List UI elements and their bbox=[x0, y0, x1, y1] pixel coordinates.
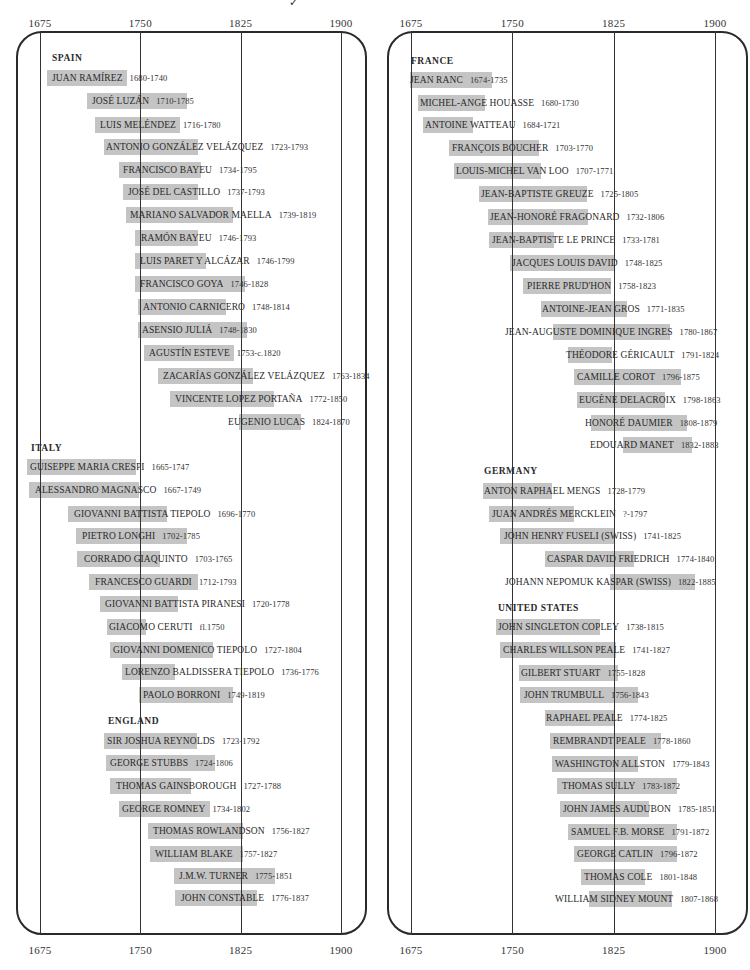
artist-row: EDOUARD MANET1832-1883 bbox=[590, 439, 719, 451]
artist-name: CORRADO GIAQUINTO bbox=[84, 554, 188, 564]
artist-name: GEORGE CATLIN bbox=[577, 849, 653, 859]
artist-name: JEAN-BAPTISTE LE PRINCE bbox=[492, 235, 615, 245]
artist-name: THÉODORE GÉRICAULT bbox=[566, 350, 674, 360]
artist-row: ZACARÍAS GONZÁLEZ VELÁZQUEZ1763-1834 bbox=[163, 370, 370, 382]
artist-dates: 1748-1825 bbox=[625, 258, 663, 268]
artist-row: JACQUES LOUIS DAVID1748-1825 bbox=[512, 257, 662, 269]
artist-name: JEAN-HONORÉ FRAGONARD bbox=[490, 212, 620, 222]
artist-dates: 1736-1776 bbox=[281, 667, 319, 677]
artist-row: JOHN SINGLETON COPLEY1738-1815 bbox=[498, 621, 664, 633]
artist-dates: 1748-1830 bbox=[219, 325, 257, 335]
artist-row: ANTOINE-JEAN GROS1771-1835 bbox=[542, 303, 685, 315]
top-axis-tick-label: 1900 bbox=[703, 17, 726, 29]
artist-name: MICHEL-ANGE HOUASSE bbox=[420, 98, 534, 108]
artist-row: PIERRE PRUD'HON1758-1823 bbox=[527, 280, 656, 292]
artist-row: JEAN-BAPTISTE GREUZE1725-1805 bbox=[481, 188, 638, 200]
artist-name: GIACOMO CERUTI bbox=[109, 622, 192, 632]
artist-row: GIACOMO CERUTIfl.1750 bbox=[109, 621, 225, 633]
artist-dates: 1756-1843 bbox=[611, 690, 649, 700]
artist-name: REMBRANDT PEALE bbox=[553, 736, 646, 746]
artist-row: PAOLO BORRONI1749-1819 bbox=[143, 689, 265, 701]
artist-dates: 1749-1819 bbox=[227, 690, 265, 700]
artist-dates: 1774-1825 bbox=[630, 713, 668, 723]
artist-dates: 1763-1834 bbox=[332, 371, 370, 381]
artist-row: JEAN-BAPTISTE LE PRINCE1733-1781 bbox=[492, 234, 660, 246]
artist-name: LORENZO BALDISSERA TIEPOLO bbox=[125, 667, 274, 677]
bottom-axis-tick-label: 1900 bbox=[329, 944, 352, 956]
artist-row: ANTON RAPHAEL MENGS1728-1779 bbox=[484, 485, 645, 497]
artist-row: LUIS PARET Y ALCÁZAR1746-1799 bbox=[140, 255, 295, 267]
artist-row: GILBERT STUART1755-1828 bbox=[521, 667, 645, 679]
artist-name: J.M.W. TURNER bbox=[179, 871, 248, 881]
artist-dates: 1703-1765 bbox=[195, 554, 233, 564]
artist-name: EUGENIO LUCAS bbox=[228, 417, 305, 427]
artist-name: RAPHAEL PEALE bbox=[546, 713, 623, 723]
artist-name: GILBERT STUART bbox=[521, 668, 601, 678]
artist-name: PAOLO BORRONI bbox=[143, 690, 220, 700]
artist-dates: 1798-1863 bbox=[683, 395, 721, 405]
artist-row: WASHINGTON ALLSTON1779-1843 bbox=[555, 758, 710, 770]
artist-row: GIOVANNI DOMENICO TIEPOLO1727-1804 bbox=[113, 644, 302, 656]
artist-row: HONORÉ DAUMIER1808-1879 bbox=[585, 417, 717, 429]
country-header-england: ENGLAND bbox=[108, 716, 159, 726]
artist-dates: 1716-1780 bbox=[183, 120, 221, 130]
artist-dates: 1732-1806 bbox=[627, 212, 665, 222]
artist-dates: 1832-1883 bbox=[681, 440, 719, 450]
artist-dates: 1741-1827 bbox=[632, 645, 670, 655]
artist-name: CAMILLE COROT bbox=[577, 372, 655, 382]
artist-dates: 1807-1868 bbox=[680, 894, 718, 904]
artist-row: WILLIAM SIDNEY MOUNT1807-1868 bbox=[555, 893, 718, 905]
artist-name: EDOUARD MANET bbox=[590, 440, 674, 450]
artist-name: WILLIAM BLAKE bbox=[155, 849, 233, 859]
artist-dates: 1723-1792 bbox=[222, 736, 260, 746]
artist-name: THOMAS COLE bbox=[584, 872, 652, 882]
artist-name: FRANCESCO GUARDI bbox=[95, 577, 192, 587]
artist-row: JOHN CONSTABLE1776-1837 bbox=[181, 892, 309, 904]
check-mark-icon: ✓ bbox=[289, 0, 298, 9]
gridline-1675 bbox=[40, 31, 41, 935]
gridline-1825 bbox=[614, 31, 615, 935]
artist-row: MARIANO SALVADOR MAELLA1739-1819 bbox=[130, 209, 316, 221]
artist-dates: 1746-1828 bbox=[231, 279, 269, 289]
artist-row: LORENZO BALDISSERA TIEPOLO1736-1776 bbox=[125, 666, 319, 678]
artist-row: JEAN-AUGUSTE DOMINIQUE INGRES1780-1867 bbox=[505, 326, 717, 338]
artist-row: THOMAS SULLY1783-1872 bbox=[562, 780, 680, 792]
top-axis-tick-label: 1750 bbox=[129, 17, 152, 29]
artist-name: PIERRE PRUD'HON bbox=[527, 281, 611, 291]
artist-name: SIR JOSHUA REYNOLDS bbox=[107, 736, 215, 746]
artist-dates: 1774-1840 bbox=[677, 554, 715, 564]
artist-row: JEAN-HONORÉ FRAGONARD1732-1806 bbox=[490, 211, 664, 223]
artist-dates: 1720-1778 bbox=[252, 599, 290, 609]
artist-row: ANTONIO GONZÁLEZ VELÁZQUEZ1723-1793 bbox=[106, 141, 308, 153]
artist-row: SIR JOSHUA REYNOLDS1723-1792 bbox=[107, 735, 260, 747]
artist-row: JOHN TRUMBULL1756-1843 bbox=[524, 689, 649, 701]
top-axis-tick-label: 1825 bbox=[229, 17, 252, 29]
artist-dates: 1780-1867 bbox=[680, 327, 718, 337]
artist-dates: 1758-1823 bbox=[618, 281, 656, 291]
country-header-united-states: UNITED STATES bbox=[498, 603, 579, 613]
artist-name: JOHANN NEPOMUK KASPAR (SWISS) bbox=[505, 577, 671, 587]
country-header-italy: ITALY bbox=[31, 443, 62, 453]
artist-dates: 1707-1771 bbox=[576, 166, 614, 176]
artist-dates: 1746-1793 bbox=[219, 233, 257, 243]
artist-row: GIOVANNI BATTISTA TIEPOLO1696-1770 bbox=[74, 508, 255, 520]
bottom-axis-tick-label: 1750 bbox=[501, 944, 524, 956]
bottom-axis-tick-label: 1750 bbox=[129, 944, 152, 956]
artist-name: JOHN JAMES AUDUBON bbox=[563, 804, 671, 814]
artist-dates: 1808-1879 bbox=[680, 418, 718, 428]
artist-name: PIETRO LONGHI bbox=[82, 531, 155, 541]
artist-row: RAMÓN BAYEU1746-1793 bbox=[141, 232, 256, 244]
top-axis-tick-label: 1750 bbox=[501, 17, 524, 29]
artist-dates: 1783-1872 bbox=[642, 781, 680, 791]
artist-dates: 1756-1827 bbox=[272, 826, 310, 836]
artist-dates: 1702-1785 bbox=[162, 531, 200, 541]
bottom-axis-tick-label: 1675 bbox=[28, 944, 51, 956]
artist-row: THOMAS GAINSBOROUGH1727-1788 bbox=[116, 780, 281, 792]
artist-row: JUAN RAMÍREZ1680-1740 bbox=[52, 72, 167, 84]
artist-row: JOHN HENRY FUSELI (SWISS)1741-1825 bbox=[504, 530, 681, 542]
artist-row: CORRADO GIAQUINTO1703-1765 bbox=[84, 553, 232, 565]
artist-dates: 1772-1850 bbox=[310, 394, 348, 404]
artist-row: GIOVANNI BATTISTA PIRANESI1720-1778 bbox=[105, 598, 290, 610]
artist-dates: 1728-1779 bbox=[607, 486, 645, 496]
artist-dates: 1779-1843 bbox=[672, 759, 710, 769]
